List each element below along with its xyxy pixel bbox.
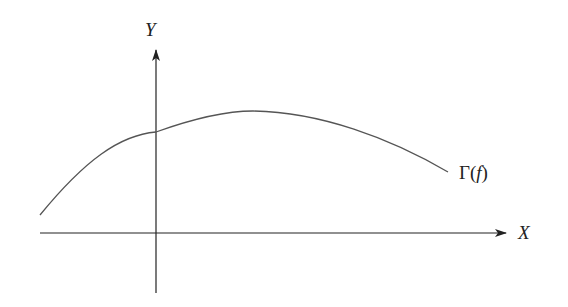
curve-label-prefix: Γ( <box>459 162 476 183</box>
function-curve <box>40 111 448 215</box>
curve-label-suffix: ) <box>482 162 488 183</box>
function-graph-diagram <box>0 0 568 307</box>
curve-label: Γ(f) <box>459 163 488 182</box>
x-axis-label: X <box>518 223 530 242</box>
y-axis-label: Y <box>145 20 156 39</box>
